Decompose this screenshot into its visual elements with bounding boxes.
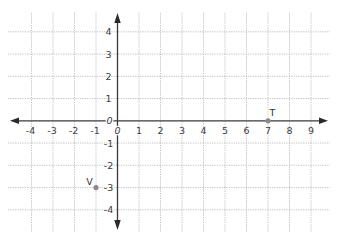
x-tick-label: 5 xyxy=(222,125,228,136)
y-tick-label: 1 xyxy=(105,93,111,104)
x-tick-label: -1 xyxy=(90,125,99,136)
x-tick-label: 3 xyxy=(179,125,185,136)
y-tick-label: -1 xyxy=(104,138,113,149)
y-tick-label: -4 xyxy=(104,204,113,215)
y-tick-label: -2 xyxy=(104,160,113,171)
grid-lines xyxy=(8,13,330,232)
x-tick-label: -3 xyxy=(47,125,56,136)
x-tick-label: 1 xyxy=(136,125,142,136)
point-label: T xyxy=(269,107,276,118)
x-tick-label: 0 xyxy=(114,125,120,136)
point-marker xyxy=(93,185,98,190)
plotted-points: TV xyxy=(86,107,275,190)
y-tick-label: 0 xyxy=(106,115,112,126)
y-tick-label: -3 xyxy=(104,182,113,193)
x-tick-label: 2 xyxy=(157,125,163,136)
x-tick-label: 4 xyxy=(200,125,206,136)
point-marker xyxy=(265,118,270,123)
point-label: V xyxy=(86,176,93,187)
x-tick-label: -4 xyxy=(26,125,35,136)
coordinate-plane-svg: -4-3-2-1012345678943210-1-2-3-4 TV xyxy=(0,0,340,245)
x-tick-label: 8 xyxy=(286,125,292,136)
arrow-left-icon xyxy=(10,118,19,124)
arrow-right-icon xyxy=(319,118,328,124)
y-tick-label: 2 xyxy=(105,71,111,82)
arrow-down-icon xyxy=(114,220,120,230)
x-tick-label: 6 xyxy=(243,125,249,136)
y-tick-label: 4 xyxy=(105,26,111,37)
coordinate-plane: -4-3-2-1012345678943210-1-2-3-4 TV xyxy=(0,0,340,245)
y-tick-label: 3 xyxy=(105,49,111,60)
axes xyxy=(10,13,328,230)
x-tick-label: -2 xyxy=(69,125,78,136)
point-v: V xyxy=(86,176,98,190)
arrow-up-icon xyxy=(114,13,120,23)
x-tick-label: 9 xyxy=(308,125,314,136)
x-tick-label: 7 xyxy=(265,125,271,136)
